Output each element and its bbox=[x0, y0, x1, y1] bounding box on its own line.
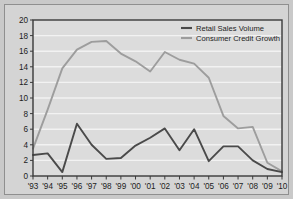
y-axis-tick-label: 20 bbox=[19, 16, 29, 25]
x-axis-tick-label: '04 bbox=[189, 182, 200, 191]
y-axis-tick-label: 12 bbox=[19, 78, 29, 87]
x-axis-tick-label: '98 bbox=[101, 182, 112, 191]
x-axis-tick-label: '96 bbox=[72, 182, 83, 191]
x-axis-tick-label: '10 bbox=[277, 182, 288, 191]
x-axis-tick-label: '01 bbox=[145, 182, 156, 191]
y-axis-tick-label: 4 bbox=[23, 141, 28, 150]
x-axis-tick-label: '93 bbox=[28, 182, 39, 191]
y-axis: 02468101214161820 bbox=[19, 16, 33, 181]
x-axis-tick-label: '03 bbox=[174, 182, 185, 191]
x-axis-tick-label: '08 bbox=[247, 182, 258, 191]
x-axis-tick-label: '95 bbox=[57, 182, 68, 191]
legend-label: Retail Sales Volume bbox=[196, 24, 264, 33]
x-axis-tick-label: '09 bbox=[262, 182, 273, 191]
y-axis-tick-label: 6 bbox=[23, 125, 28, 134]
y-axis-tick-label: 0 bbox=[23, 172, 28, 181]
y-axis-tick-label: 14 bbox=[19, 63, 29, 72]
legend-label: Consumer Credit Growth bbox=[196, 34, 280, 43]
x-axis-tick-label: '00 bbox=[130, 182, 141, 191]
x-axis-tick-label: '02 bbox=[159, 182, 170, 191]
x-axis-tick-label: '06 bbox=[218, 182, 229, 191]
x-axis-tick-label: '99 bbox=[116, 182, 127, 191]
x-axis-tick-label: '97 bbox=[86, 182, 97, 191]
y-axis-tick-label: 16 bbox=[19, 47, 29, 56]
x-axis-tick-label: '05 bbox=[203, 182, 214, 191]
x-axis-tick-label: '94 bbox=[42, 182, 53, 191]
chart-figure: 02468101214161820'93'94'95'96'97'98'99'0… bbox=[5, 5, 290, 196]
chart-panel: 02468101214161820'93'94'95'96'97'98'99'0… bbox=[4, 4, 289, 195]
y-axis-tick-label: 18 bbox=[19, 32, 29, 41]
x-axis-tick-label: '07 bbox=[233, 182, 244, 191]
y-axis-tick-label: 8 bbox=[23, 110, 28, 119]
line-chart: 02468101214161820'93'94'95'96'97'98'99'0… bbox=[5, 5, 290, 196]
y-axis-tick-label: 10 bbox=[19, 94, 29, 103]
x-axis: '93'94'95'96'97'98'99'00'01'02'03'04'05'… bbox=[28, 176, 288, 191]
y-axis-tick-label: 2 bbox=[23, 156, 28, 165]
